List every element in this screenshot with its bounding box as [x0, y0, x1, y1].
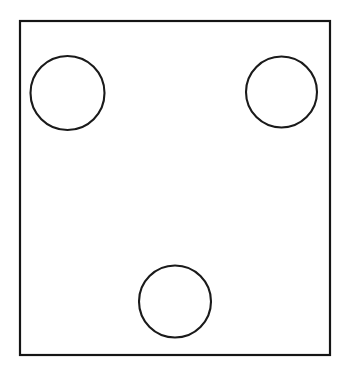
- drawing-canvas: [0, 0, 348, 383]
- line-drawing-figure: [0, 0, 348, 383]
- circle-top-left: [31, 56, 105, 130]
- circle-top-right: [246, 57, 317, 128]
- circle-bottom-center: [139, 266, 211, 338]
